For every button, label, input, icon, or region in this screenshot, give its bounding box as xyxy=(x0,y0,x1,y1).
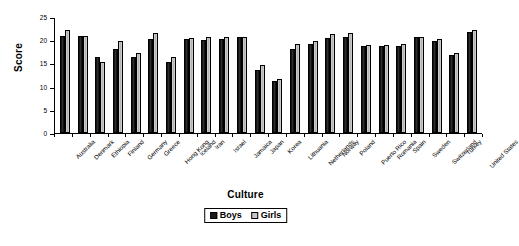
bar-girls xyxy=(118,41,123,133)
bar-girls xyxy=(189,38,194,133)
x-axis-category-label: Poland xyxy=(358,138,377,157)
x-axis-tick xyxy=(357,134,358,137)
y-axis-tick-label: 5 xyxy=(27,106,47,115)
bar-girls xyxy=(153,33,158,133)
bar-girls xyxy=(136,53,141,133)
x-axis-category-labels: AustraliaDenmarkEthiopiaFinlandGermanyGr… xyxy=(54,138,482,186)
bar-girls xyxy=(330,34,335,133)
y-axis-tick-label: 0 xyxy=(27,129,47,138)
bar-girls xyxy=(419,37,424,134)
bar-group xyxy=(268,18,286,133)
x-axis-tick xyxy=(90,134,91,137)
bar-group xyxy=(145,18,163,133)
legend-label-boys: Boys xyxy=(220,210,242,220)
bar-girls xyxy=(171,57,176,133)
bar-girls xyxy=(242,37,247,134)
legend-item-boys: Boys xyxy=(210,210,242,220)
bar-girls xyxy=(401,44,406,133)
y-axis-tick: 20 xyxy=(50,41,54,42)
x-axis-category-label: United States xyxy=(488,138,519,169)
bar-girls xyxy=(384,45,389,133)
x-axis-tick xyxy=(464,134,465,137)
x-axis-tick xyxy=(286,134,287,137)
bar-group xyxy=(286,18,304,133)
x-axis-tick xyxy=(393,134,394,137)
bar-girls xyxy=(224,37,229,133)
bar-group xyxy=(180,18,198,133)
bar-group xyxy=(109,18,127,133)
legend-item-girls: Girls xyxy=(251,210,282,220)
x-axis-tick xyxy=(429,134,430,137)
x-axis-tick xyxy=(482,134,483,137)
plot-area: 0510152025 xyxy=(54,18,482,134)
y-axis-tick-label: 15 xyxy=(27,59,47,68)
x-axis-tick xyxy=(179,134,180,137)
x-axis-tick xyxy=(72,134,73,137)
x-axis-tick xyxy=(446,134,447,137)
x-axis-category-label: Sweden xyxy=(430,138,451,159)
bar-girls xyxy=(348,33,353,133)
bar-group xyxy=(428,18,446,133)
bar-group xyxy=(375,18,393,133)
x-axis-tick xyxy=(232,134,233,137)
y-axis-title: Score xyxy=(13,28,24,88)
legend-swatch-girls-icon xyxy=(251,212,258,219)
bar-group xyxy=(410,18,428,133)
bar-group xyxy=(233,18,251,133)
bar-group xyxy=(357,18,375,133)
x-axis-tick xyxy=(322,134,323,137)
y-axis-tick: 10 xyxy=(50,88,54,89)
x-axis-category-label: Turkey xyxy=(465,138,483,156)
legend-label-girls: Girls xyxy=(261,210,282,220)
y-axis-tick-label: 25 xyxy=(27,13,47,22)
y-axis-tick: 25 xyxy=(50,18,54,19)
x-axis-tick xyxy=(411,134,412,137)
x-axis-tick xyxy=(304,134,305,137)
x-axis-tick xyxy=(108,134,109,137)
bar-girls xyxy=(83,36,88,133)
x-axis-tick xyxy=(375,134,376,137)
bar-girls xyxy=(65,30,70,133)
bar-girls xyxy=(260,65,265,133)
bar-group xyxy=(445,18,463,133)
x-axis-tick xyxy=(54,134,55,137)
y-axis-tick-label: 20 xyxy=(27,36,47,45)
bar-girls xyxy=(295,44,300,133)
bar-group xyxy=(339,18,357,133)
bar-group xyxy=(322,18,340,133)
bar-girls xyxy=(437,39,442,133)
y-axis-tick: 5 xyxy=(50,111,54,112)
x-axis-tick xyxy=(125,134,126,137)
y-axis-tick-label: 10 xyxy=(27,83,47,92)
bar-group xyxy=(251,18,269,133)
bar-group xyxy=(56,18,74,133)
bar-girls xyxy=(472,30,477,133)
x-axis-tick xyxy=(161,134,162,137)
bar-girls xyxy=(313,41,318,133)
x-axis-category-label: Korea xyxy=(286,138,303,155)
bar-group xyxy=(198,18,216,133)
x-axis-category-label: Israel xyxy=(232,138,248,154)
x-axis-category-label: Norway xyxy=(341,138,361,158)
bar-girls xyxy=(206,37,211,134)
bar-girls xyxy=(277,79,282,133)
bar-group xyxy=(91,18,109,133)
legend-swatch-boys-icon xyxy=(210,212,217,219)
bar-group xyxy=(392,18,410,133)
y-axis-tick: 15 xyxy=(50,64,54,65)
x-axis-tick xyxy=(268,134,269,137)
x-axis-tick xyxy=(339,134,340,137)
bar-girls xyxy=(100,62,105,133)
bar-group xyxy=(215,18,233,133)
bar-group xyxy=(127,18,145,133)
bar-girls xyxy=(454,53,459,133)
x-axis-tick xyxy=(143,134,144,137)
bar-group xyxy=(162,18,180,133)
x-axis-tick xyxy=(215,134,216,137)
chart-legend: Boys Girls xyxy=(204,208,288,223)
x-axis-tick xyxy=(250,134,251,137)
x-axis-category-label: Lithuania xyxy=(306,138,329,161)
x-axis-tick xyxy=(197,134,198,137)
bar-group xyxy=(74,18,92,133)
